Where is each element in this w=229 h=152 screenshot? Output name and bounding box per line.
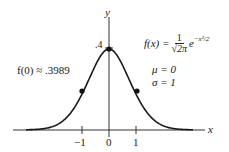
point-neg1 — [79, 88, 84, 93]
y-axis-label: y — [105, 7, 110, 18]
formula: f(x) = 1 √2π e −x²/2 — [144, 33, 209, 54]
x-tick-label-0: 0 — [106, 137, 112, 148]
f0-annotation: f(0) ≈ .3989 — [17, 65, 70, 76]
x-tick-label-1: 1 — [133, 137, 139, 148]
normal-curve-plot — [0, 0, 229, 152]
sigma-label: σ = 1 — [152, 77, 176, 88]
y-tick-label: .4 — [95, 40, 103, 50]
formula-exponent: −x²/2 — [194, 36, 209, 43]
point-1 — [134, 88, 139, 93]
formula-denominator: √2π — [171, 44, 187, 54]
formula-fraction: 1 √2π — [171, 33, 187, 54]
f0-text: f(0) ≈ .3989 — [17, 64, 70, 76]
x-axis-label: x — [208, 124, 213, 135]
mu-label: μ = 0 — [152, 64, 176, 75]
formula-lhs: f(x) = — [144, 38, 169, 49]
x-tick-label-neg1: −1 — [74, 137, 86, 148]
point-peak — [106, 46, 111, 51]
